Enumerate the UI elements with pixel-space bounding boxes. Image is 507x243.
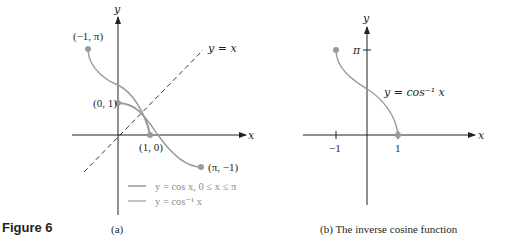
- x-tick-label-neg1: −1: [329, 142, 341, 154]
- x-axis-label: x: [248, 129, 255, 142]
- point-pi-neg1: [198, 164, 204, 170]
- panel-b-caption: (b) The inverse cosine function: [320, 223, 458, 236]
- point-1-0: [395, 132, 401, 138]
- panel-a: x y y = x (−1, π) (0, 1) (1, 0) (π, −1) …: [72, 3, 255, 236]
- legend-label-arccos: y = cos⁻¹ x: [155, 196, 203, 207]
- legend: y = cos x, 0 ≤ x ≤ π y = cos⁻¹ x: [128, 181, 237, 207]
- figure-canvas: x y y = x (−1, π) (0, 1) (1, 0) (π, −1) …: [0, 0, 507, 243]
- point-neg1-pi: [333, 47, 339, 53]
- point-1-0: [147, 132, 153, 138]
- y-axis-label: y: [362, 12, 370, 25]
- point-label-0-1: (0, 1): [93, 97, 117, 110]
- point-label-neg1-pi: (−1, π): [73, 30, 103, 43]
- curve-label: y = cos⁻¹ x: [383, 86, 446, 99]
- x-axis-label: x: [478, 129, 485, 142]
- panel-a-caption: (a): [111, 223, 124, 236]
- x-tick-label-1: 1: [395, 142, 401, 154]
- identity-line-label: y = x: [207, 42, 237, 55]
- arccos-curve: [88, 49, 150, 135]
- point-label-pi-neg1: (π, −1): [208, 161, 238, 174]
- figure-label: Figure 6: [2, 220, 53, 235]
- y-tick-label-pi: π: [352, 44, 361, 57]
- identity-line: [84, 50, 203, 172]
- point-label-1-0: (1, 0): [139, 141, 163, 154]
- legend-label-cos: y = cos x, 0 ≤ x ≤ π: [155, 181, 237, 192]
- y-axis-label: y: [113, 3, 121, 16]
- point-neg1-pi: [85, 46, 91, 52]
- panel-b: x y −1 1 π y = cos⁻¹ x (b) The inverse c…: [303, 12, 485, 236]
